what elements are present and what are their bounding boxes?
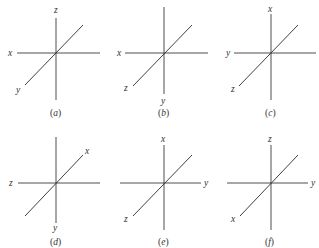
- vertical-top-label: x: [160, 134, 166, 144]
- diagonal-axis: [240, 155, 298, 216]
- diagonal-axis: [25, 155, 83, 216]
- panel-caption: (d): [50, 237, 61, 248]
- diagonal-upper-right-label: x: [84, 146, 90, 156]
- diagonal-lower-left-label: x: [230, 214, 236, 224]
- vertical-top-label: x: [267, 4, 273, 14]
- diagonal-lower-left-label: y: [15, 85, 21, 95]
- diagonal-lower-left-label: z: [123, 214, 128, 224]
- panel-caption: (a): [50, 108, 61, 119]
- panel-d: x z y (d): [8, 137, 100, 248]
- diagonal-axis: [133, 155, 192, 216]
- diagonal-lower-left-label: z: [123, 83, 128, 93]
- panel-a: z x y (a): [7, 5, 100, 119]
- panel-b: x z y (b): [116, 7, 208, 119]
- panel-f: z y x (f): [227, 134, 316, 248]
- diagonal-axis: [133, 25, 192, 86]
- diagonal-lower-left-label: z: [230, 84, 235, 94]
- panel-caption: (f): [265, 237, 274, 248]
- horizontal-left-label: x: [7, 48, 13, 58]
- panel-e: x y z (e): [120, 134, 209, 248]
- vertical-top-label: z: [53, 5, 58, 15]
- panel-caption: (b): [158, 108, 169, 119]
- panel-c: x y z (c): [225, 4, 316, 119]
- diagonal-axis: [25, 25, 83, 85]
- horizontal-right-label: y: [310, 178, 316, 188]
- diagonal-axis: [239, 25, 298, 86]
- panel-caption: (c): [265, 108, 276, 119]
- coordinate-axes-figure: z x y (a) x z y (b) x y z (c) x z y (d): [0, 0, 319, 248]
- horizontal-right-label: y: [203, 178, 209, 188]
- panel-caption: (e): [158, 237, 169, 248]
- horizontal-left-label: z: [8, 178, 13, 188]
- vertical-bottom-label: y: [52, 223, 58, 233]
- horizontal-left-label: y: [225, 48, 231, 58]
- vertical-top-label: z: [267, 134, 272, 144]
- vertical-bottom-label: y: [160, 96, 166, 106]
- horizontal-left-label: x: [116, 48, 122, 58]
